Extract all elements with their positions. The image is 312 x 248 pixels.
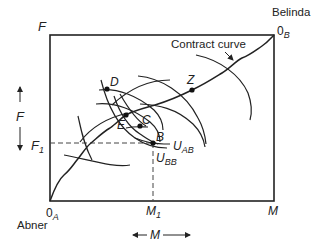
point-e-label: E	[117, 118, 126, 132]
edgeworth-box	[50, 35, 274, 201]
point-b-label: B	[156, 130, 164, 144]
point-z	[189, 87, 194, 92]
point-z-label: Z	[186, 73, 195, 87]
u-bb-label: UBB	[156, 151, 177, 167]
f-arrow-label: F	[16, 109, 25, 124]
point-d-label: D	[110, 75, 119, 89]
u-ab-label: UAB	[173, 139, 194, 155]
abner-label: Abner	[17, 219, 48, 231]
m-arrow-label: M	[150, 228, 160, 242]
contract-curve-pointer	[225, 52, 233, 60]
belinda-label: Belinda	[272, 6, 311, 18]
contract-curve-label: Contract curve	[171, 38, 246, 50]
m1-label: M1	[146, 204, 161, 220]
m-axis-right-label: M	[268, 204, 278, 218]
f1-label: F1	[31, 138, 44, 155]
abner-indifference-curve-1	[78, 116, 92, 160]
point-d	[104, 86, 109, 91]
origin-a-label: 0A	[46, 206, 59, 222]
edgeworth-box-diagram: D E C B Z UAB UBB Contract curve F Belin…	[0, 0, 312, 248]
f-axis-top-label: F	[38, 19, 47, 34]
belinda-indifference-curve-3	[112, 80, 170, 105]
point-e	[123, 112, 128, 117]
belinda-indifference-curve-2	[196, 55, 251, 120]
point-c-label: C	[142, 113, 151, 127]
point-b	[150, 140, 155, 145]
origin-b-label: 0B	[277, 24, 290, 40]
contract-curve	[50, 35, 274, 201]
